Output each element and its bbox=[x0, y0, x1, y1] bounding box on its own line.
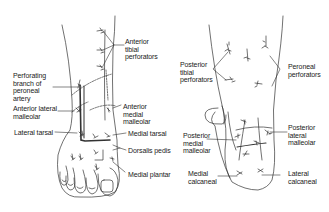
label-medial-tarsal: Medial tarsal bbox=[128, 130, 166, 138]
label-lateral-tarsal: Lateral tarsal bbox=[14, 129, 53, 137]
label-dorsalis-pedis: Dorsalis pedis bbox=[128, 147, 171, 155]
label-medial-plantar: Medial plantar bbox=[128, 171, 171, 179]
label-perforating-branch-peroneal: Perforating branch of peroneal artery bbox=[13, 72, 46, 102]
label-lateral-calcaneal: Lateral calcaneal bbox=[288, 170, 317, 185]
label-anterior-medial-malleolar: Anterior medial malleolar bbox=[123, 103, 151, 126]
label-posterior-tibial-perforators: Posterior tibial perforators bbox=[180, 61, 213, 84]
label-peroneal-perforators: Peroneal perforators bbox=[288, 63, 321, 78]
label-anterior-tibial-perforators: Anterior tibial perforators bbox=[125, 38, 158, 61]
label-anterior-lateral-malleolar: Anterior lateral malleolar bbox=[13, 105, 57, 120]
left-leader-lines bbox=[53, 31, 126, 172]
right-foot-outline bbox=[205, 16, 283, 190]
label-posterior-lateral-malleolar: Posterior lateral malleolar bbox=[288, 124, 316, 147]
label-posterior-medial-malleolar: Posterior medial malleolar bbox=[183, 132, 211, 155]
label-medial-calcaneal: Medial calcaneal bbox=[188, 170, 217, 185]
left-foot-outline bbox=[58, 16, 120, 197]
